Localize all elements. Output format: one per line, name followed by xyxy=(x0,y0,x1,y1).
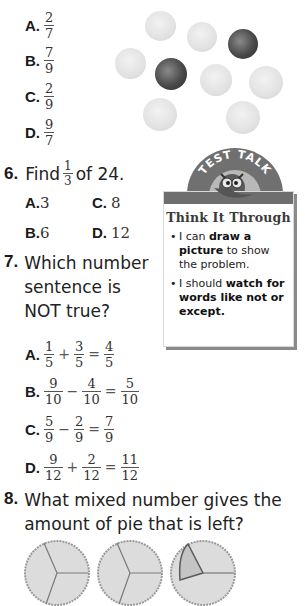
q7-option-b[interactable]: B. 910 − 410 = 510 xyxy=(25,372,139,410)
tips-list: I can draw a picture to show the problem… xyxy=(170,230,290,324)
tennis-ball-icon xyxy=(249,66,283,99)
question-text: Find xyxy=(25,163,60,185)
q8-stem: 8. What mixed number gives the amount of… xyxy=(4,488,282,536)
option-label: B. xyxy=(25,52,40,69)
question-text: of 24. xyxy=(76,163,125,185)
q7-option-d[interactable]: D. 912 + 212 = 1112 xyxy=(25,448,139,486)
question-text: Which number xyxy=(24,251,148,275)
tennis-ball-icon xyxy=(115,48,146,79)
q5-option-d[interactable]: D. 97 xyxy=(25,114,54,150)
q5-options: A. 27 B. 79 C. 29 D. 97 xyxy=(25,8,54,150)
q7-option-a[interactable]: A. 15 + 35 = 45 xyxy=(25,336,139,372)
question-number: 6. xyxy=(4,164,18,184)
q5-option-c[interactable]: C. 29 xyxy=(25,78,54,114)
q6-option-d[interactable]: D.12 xyxy=(92,223,130,242)
q7-stem: 7. Which number sentence is NOT true? xyxy=(4,251,148,323)
owl-wing-icon xyxy=(204,186,264,206)
test-talk-box: Think It Through I can draw a picture to… xyxy=(163,191,294,347)
fraction: 79 xyxy=(44,46,54,75)
fraction: 13 xyxy=(63,160,73,187)
option-label: A. xyxy=(25,17,40,34)
fraction: 97 xyxy=(44,118,54,147)
tennis-ball-icon xyxy=(200,64,232,96)
question-text: NOT true? xyxy=(24,299,148,323)
q6-option-b[interactable]: B.6 xyxy=(25,223,50,242)
option-label: D. xyxy=(25,124,40,141)
tennis-ball-icon xyxy=(145,11,176,41)
tennis-ball-icon xyxy=(143,98,177,131)
pie-icon xyxy=(97,540,163,606)
q6-stem: 6. Find 13 of 24. xyxy=(4,160,125,187)
tip-item: I should watch for words like not or exc… xyxy=(170,277,290,319)
q5-option-a[interactable]: A. 27 xyxy=(25,8,54,42)
q6-option-a[interactable]: A.3 xyxy=(25,193,50,212)
dark-ball-icon xyxy=(228,29,258,59)
q7-options: A. 15 + 35 = 45 B. 910 − 410 = 510 C. 59… xyxy=(25,336,139,486)
tennis-ball-icon xyxy=(187,22,217,52)
q6-option-c[interactable]: C.8 xyxy=(92,193,121,212)
fraction: 29 xyxy=(44,82,54,111)
question-text: amount of pie that is left? xyxy=(24,512,282,536)
pie-partial-icon xyxy=(170,540,236,606)
dark-ball-icon xyxy=(155,58,187,90)
q7-option-c[interactable]: C. 59 − 29 = 79 xyxy=(25,410,139,448)
think-it-through-title: Think It Through xyxy=(164,210,293,225)
fraction: 27 xyxy=(44,11,54,40)
question-text: What mixed number gives the xyxy=(24,488,282,512)
tip-item: I can draw a picture to show the problem… xyxy=(170,230,290,272)
option-label: C. xyxy=(25,88,40,105)
question-number: 7. xyxy=(4,251,18,323)
tennis-ball-icon xyxy=(226,101,260,134)
question-text: sentence is xyxy=(24,275,148,299)
pie-icon xyxy=(24,540,90,606)
question-number: 8. xyxy=(4,488,18,536)
q5-option-b[interactable]: B. 79 xyxy=(25,42,54,78)
